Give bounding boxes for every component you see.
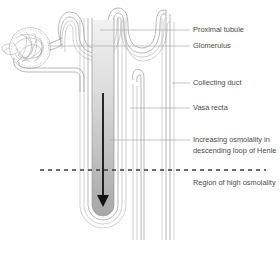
glomerulus-structure [2, 28, 63, 69]
bowman-capsule-tail [14, 58, 84, 92]
label-region-high-osmolality: Region of high osmolality [193, 178, 276, 187]
label-collecting-duct: Collecting duct [193, 78, 241, 87]
label-increasing-osmolality-line1: Increasing osmolality in [193, 135, 270, 144]
nephron-diagram: Proximal tubule Glomerulus Collecting du… [0, 0, 280, 254]
label-glomerulus: Glomerulus [193, 41, 231, 50]
label-proximal-tubule: Proximal tubule [193, 25, 244, 34]
label-vasa-recta: Vasa recta [193, 103, 229, 112]
nephron-illustration: Proximal tubule Glomerulus Collecting du… [0, 0, 280, 254]
vasa-recta [133, 69, 144, 240]
label-increasing-osmolality-line2: descending loop of Henle [193, 146, 276, 155]
leader-lines [48, 30, 190, 140]
